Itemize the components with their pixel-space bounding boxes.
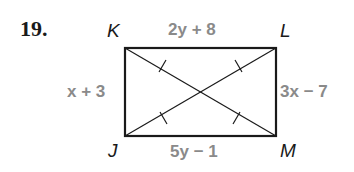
vertex-m: M: [280, 140, 296, 162]
tick-mark: [233, 112, 240, 124]
vertex-j: J: [108, 140, 118, 162]
side-kj-label: x + 3: [67, 82, 105, 102]
vertex-k: K: [107, 20, 120, 42]
side-kl-label: 2y + 8: [168, 20, 216, 40]
side-lm-label: 3x − 7: [280, 82, 328, 102]
side-jm-label: 5y − 1: [170, 142, 218, 162]
vertex-l: L: [280, 20, 291, 42]
